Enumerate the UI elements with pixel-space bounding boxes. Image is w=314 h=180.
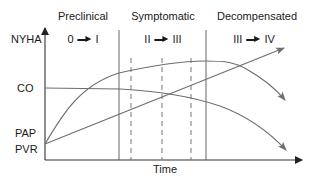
right-arrow-icon <box>78 36 92 44</box>
y-label-nyha: NYHA <box>11 34 42 45</box>
phase-label-decompensated: Decompensated <box>217 11 297 22</box>
phase-label-symptomatic: Symptomatic <box>131 11 195 22</box>
nyha-curve <box>45 61 285 144</box>
y-label-pap: PAP <box>15 128 36 139</box>
x-label-time: Time <box>153 164 177 175</box>
nyha-to-class: I <box>96 34 99 45</box>
right-arrow-icon <box>154 36 168 44</box>
co-curve <box>45 88 286 150</box>
y-label-pvr: PVR <box>15 144 38 155</box>
nyha-to-class: III <box>172 34 181 45</box>
y-label-co: CO <box>17 83 34 94</box>
right-arrow-icon <box>246 36 260 44</box>
nyha-from-class: II <box>144 34 150 45</box>
nyha-transition-decompensated: III IV <box>233 34 275 45</box>
nyha-transition-symptomatic: II III <box>144 34 181 45</box>
pap-pvr-line <box>45 48 284 144</box>
diagram-graphics <box>0 0 314 180</box>
nyha-from-class: 0 <box>67 34 73 45</box>
nyha-to-class: IV <box>264 34 274 45</box>
nyha-transition-preclinical: 0 I <box>67 34 98 45</box>
phase-label-preclinical: Preclinical <box>58 11 108 22</box>
disease-progression-diagram: Preclinical Symptomatic Decompensated 0 … <box>0 0 314 180</box>
nyha-from-class: III <box>233 34 242 45</box>
